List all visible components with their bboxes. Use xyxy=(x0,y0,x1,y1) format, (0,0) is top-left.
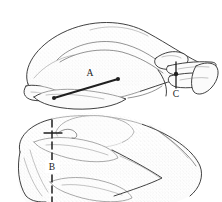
marker-c-point-dot xyxy=(174,72,178,76)
diagram-canvas: A C xyxy=(0,0,222,202)
marker-c-label: C xyxy=(173,89,180,99)
panel-bottom-carved-bird: B xyxy=(14,110,210,202)
panel-top-whole-bird: A C xyxy=(24,18,218,114)
marker-a-start-dot xyxy=(52,96,56,100)
marker-b-label: B xyxy=(49,162,56,172)
foot-knuckle xyxy=(192,63,219,94)
marker-a-label: A xyxy=(86,68,93,78)
carving-diagram-figure: A C xyxy=(0,0,222,202)
marker-a-end-dot xyxy=(116,77,120,81)
